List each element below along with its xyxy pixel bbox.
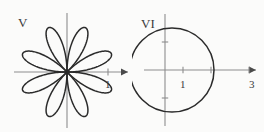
panel-circle-curve: VI 1 3	[132, 0, 264, 132]
axes-group-left	[14, 13, 128, 128]
figure-root: V 1 VI 1 3	[0, 0, 264, 132]
x-tick-label-1: 1	[180, 78, 186, 90]
rose-petal	[22, 51, 67, 72]
panel-label-v: V	[18, 15, 28, 30]
x-axis-arrow-icon	[121, 69, 128, 76]
rose-petal	[67, 27, 88, 72]
rose-petal	[46, 27, 67, 72]
x-axis-arrow-icon	[249, 67, 256, 74]
rose-petal	[22, 72, 67, 93]
panel-rose-curve: V 1	[0, 0, 132, 132]
panel-label-vi: VI	[141, 16, 155, 31]
axes-group-right	[144, 14, 256, 126]
x-tick-label-1: 1	[105, 78, 111, 90]
rose-petal	[46, 72, 67, 117]
x-tick-label-3: 3	[249, 78, 255, 90]
rose-petal	[67, 72, 88, 117]
rose-petal	[67, 51, 112, 72]
